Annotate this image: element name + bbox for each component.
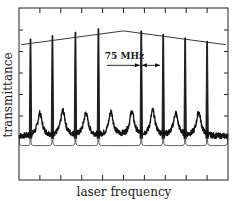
mode-well-curve xyxy=(208,139,228,146)
arrowhead-icon xyxy=(155,63,160,67)
transmission-peak xyxy=(162,34,164,138)
mode-well-curve xyxy=(142,139,163,146)
annotation-label: 75 MHz xyxy=(105,51,144,61)
mode-well-curve xyxy=(31,139,52,146)
mode-well-curve xyxy=(99,139,141,146)
transmission-peak xyxy=(29,39,31,139)
series-layer xyxy=(19,29,228,146)
axis-ticks xyxy=(19,8,228,180)
mode-well-curve xyxy=(186,139,207,146)
arrowhead-icon xyxy=(142,63,147,67)
transmission-peak xyxy=(184,38,186,139)
mode-well-curve xyxy=(76,139,98,146)
transmission-peak xyxy=(51,36,53,139)
transmission-peak xyxy=(140,31,142,139)
mode-well-curve xyxy=(20,139,30,146)
plot-border xyxy=(19,8,228,180)
plot-frame xyxy=(19,8,228,180)
mode-well-curve xyxy=(164,139,185,146)
transmission-peak xyxy=(206,41,208,138)
y-axis-label: transmittance xyxy=(1,52,15,137)
arrowhead-icon xyxy=(135,63,140,67)
noisy-signal-trace xyxy=(19,108,228,139)
transmission-peak xyxy=(74,32,76,139)
chart: laser frequency transmittance 75 MHz xyxy=(0,0,235,201)
transmission-peak xyxy=(97,29,99,139)
x-axis-label: laser frequency xyxy=(77,185,172,199)
annotation-layer xyxy=(107,63,160,67)
mode-well-curve xyxy=(53,139,75,146)
